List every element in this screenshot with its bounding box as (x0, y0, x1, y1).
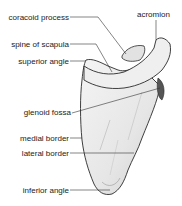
label-glenoid-fossa: glenoid fossa (0, 108, 71, 117)
label-medial-border: medial border (0, 134, 69, 143)
label-spine-of-scapula: spine of scapula (0, 40, 69, 49)
label-inferior-angle: inferior angle (0, 186, 69, 195)
scapula-illustration (0, 0, 182, 206)
label-coracoid-process: coracoid process (0, 13, 69, 22)
glenoid-shadow (157, 78, 164, 100)
label-superior-angle: superior angle (0, 57, 69, 66)
label-acromion: acromion (137, 10, 170, 19)
label-lateral-border: lateral border (0, 149, 69, 158)
